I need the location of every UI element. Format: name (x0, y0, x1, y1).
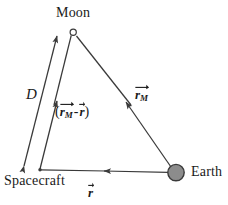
vector-rm-line (77, 36, 172, 167)
close-paren: ) (84, 104, 89, 119)
vector-r-letter: r (88, 185, 93, 200)
difference-r-letter: r (79, 104, 84, 119)
moon-node-marker (70, 29, 76, 35)
earth-label: Earth (191, 165, 222, 179)
minus-sign: - (73, 104, 80, 119)
vector-r-line (40, 170, 168, 173)
vector-rm-label: rM (135, 85, 148, 103)
spacecraft-node-marker (38, 168, 41, 171)
vector-rm-symbol: rM (135, 85, 148, 103)
difference-rm-subscript: M (65, 110, 73, 120)
vector-r-label: r (88, 183, 93, 200)
earth-node-marker (168, 164, 184, 180)
spacecraft-label: Spacecraft (4, 174, 65, 188)
vector-r-symbol: r (88, 183, 93, 199)
vector-rm-subscript: M (140, 93, 148, 103)
vector-difference-label: ( rM - r ) (55, 102, 89, 120)
moon-label: Moon (56, 6, 90, 20)
distance-d-label: D (26, 87, 37, 102)
difference-rm-symbol: rM (60, 102, 73, 120)
vector-diagram: Moon Earth Spacecraft D rM r (0, 0, 228, 205)
difference-r-symbol: r (79, 102, 84, 118)
